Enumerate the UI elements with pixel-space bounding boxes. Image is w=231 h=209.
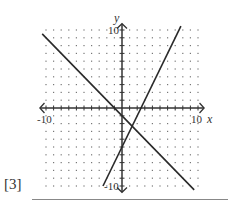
x-axis-label: x — [206, 112, 213, 126]
line-decreasing — [42, 34, 194, 190]
answer-line[interactable] — [32, 199, 228, 200]
y-min-tick-label: -10 — [104, 180, 119, 192]
y-max-tick-label: 10 — [108, 24, 120, 36]
coordinate-plane: y x -10 10 10 -10 — [0, 0, 231, 209]
marks-label: [3] — [4, 176, 22, 193]
axes — [40, 24, 204, 192]
x-max-tick-label: 10 — [191, 113, 203, 125]
y-axis-label: y — [113, 11, 120, 25]
x-min-tick-label: -10 — [37, 113, 52, 125]
